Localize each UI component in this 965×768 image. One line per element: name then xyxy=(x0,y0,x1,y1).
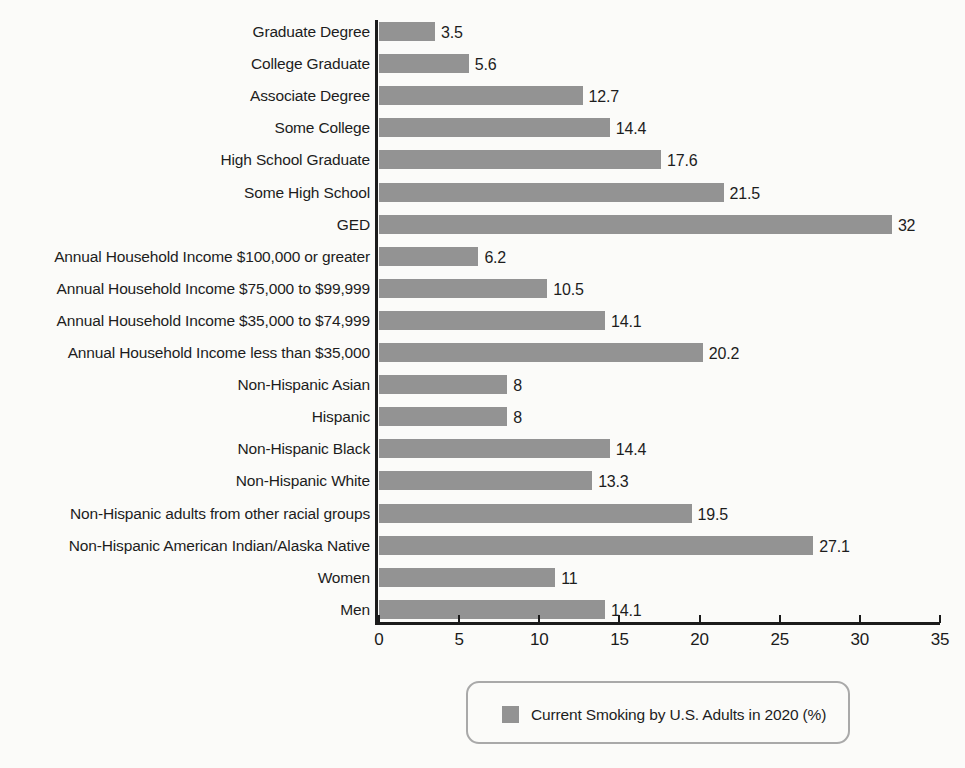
bar-row: Men14.1 xyxy=(0,594,965,626)
category-label: Hispanic xyxy=(312,401,370,433)
bar-value-label: 13.3 xyxy=(598,465,628,497)
category-label: Non-Hispanic White xyxy=(236,465,370,497)
x-tick-label: 35 xyxy=(931,630,950,650)
bar xyxy=(379,279,547,298)
bar xyxy=(379,504,692,523)
plot-area: Graduate Degree3.5College Graduate5.6Ass… xyxy=(0,0,965,768)
bar-chart: Graduate Degree3.5College Graduate5.6Ass… xyxy=(0,0,965,768)
x-tick xyxy=(538,615,540,623)
x-tick-label: 5 xyxy=(455,630,464,650)
bar-value-label: 27.1 xyxy=(819,530,849,562)
bar xyxy=(379,247,478,266)
bar xyxy=(379,86,583,105)
x-tick xyxy=(378,615,380,623)
bar-row: Non-Hispanic White13.3 xyxy=(0,465,965,497)
category-label: Non-Hispanic American Indian/Alaska Nati… xyxy=(69,530,370,562)
bar-value-label: 6.2 xyxy=(484,241,506,273)
x-tick-label: 10 xyxy=(530,630,549,650)
chart-legend: Current Smoking by U.S. Adults in 2020 (… xyxy=(466,681,850,744)
bar xyxy=(379,471,592,490)
category-label: Graduate Degree xyxy=(252,16,370,48)
bar-value-label: 10.5 xyxy=(553,273,583,305)
bar xyxy=(379,118,610,137)
bar xyxy=(379,375,507,394)
bar-row: Annual Household Income $75,000 to $99,9… xyxy=(0,273,965,305)
bar xyxy=(379,183,724,202)
bar-row: GED32 xyxy=(0,209,965,241)
bar-row: Annual Household Income $35,000 to $74,9… xyxy=(0,305,965,337)
bar xyxy=(379,215,892,234)
category-label: Annual Household Income $35,000 to $74,9… xyxy=(57,305,370,337)
bar-row: Some College14.4 xyxy=(0,112,965,144)
x-tick-label: 30 xyxy=(851,630,870,650)
category-label: Some High School xyxy=(244,177,370,209)
bar-row: Associate Degree12.7 xyxy=(0,80,965,112)
bar-value-label: 21.5 xyxy=(730,177,760,209)
category-label: Non-Hispanic adults from other racial gr… xyxy=(70,498,370,530)
bar xyxy=(379,600,605,619)
bar-value-label: 8 xyxy=(513,369,522,401)
x-tick-label: 25 xyxy=(770,630,789,650)
category-label: Some College xyxy=(274,112,370,144)
x-tick xyxy=(618,615,620,623)
bar-row: Non-Hispanic Asian8 xyxy=(0,369,965,401)
category-label: Annual Household Income $100,000 or grea… xyxy=(54,241,370,273)
bar-value-label: 5.6 xyxy=(475,48,497,80)
bar xyxy=(379,536,813,555)
bar xyxy=(379,311,605,330)
bar-row: Graduate Degree3.5 xyxy=(0,16,965,48)
category-label: Annual Household Income less than $35,00… xyxy=(68,337,370,369)
bar-value-label: 14.4 xyxy=(616,112,646,144)
bar xyxy=(379,54,469,73)
x-tick xyxy=(699,615,701,623)
bar xyxy=(379,343,703,362)
bar-value-label: 19.5 xyxy=(698,498,728,530)
x-tick xyxy=(458,615,460,623)
bar-value-label: 3.5 xyxy=(441,16,463,48)
x-tick xyxy=(859,615,861,623)
bar xyxy=(379,439,610,458)
legend-color-swatch xyxy=(502,706,519,723)
legend-entry: Current Smoking by U.S. Adults in 2020 (… xyxy=(502,683,826,746)
legend-label: Current Smoking by U.S. Adults in 2020 (… xyxy=(531,706,826,724)
bar-row: Non-Hispanic Black14.4 xyxy=(0,433,965,465)
bar-value-label: 14.1 xyxy=(611,305,641,337)
bar-value-label: 8 xyxy=(513,401,522,433)
bar-value-label: 20.2 xyxy=(709,337,739,369)
category-label: High School Graduate xyxy=(220,144,370,176)
x-tick xyxy=(779,615,781,623)
bar-row: College Graduate5.6 xyxy=(0,48,965,80)
x-tick xyxy=(939,615,941,623)
bar-row: Hispanic8 xyxy=(0,401,965,433)
bar-value-label: 12.7 xyxy=(589,80,619,112)
bar xyxy=(379,568,555,587)
category-label: Women xyxy=(318,562,370,594)
x-tick-label: 15 xyxy=(610,630,629,650)
x-tick-label: 20 xyxy=(690,630,709,650)
category-label: Non-Hispanic Black xyxy=(237,433,370,465)
bar-value-label: 11 xyxy=(561,562,577,594)
bar-value-label: 14.1 xyxy=(611,594,641,626)
bar-value-label: 32 xyxy=(898,209,915,241)
bar-row: Non-Hispanic American Indian/Alaska Nati… xyxy=(0,530,965,562)
y-axis-line xyxy=(375,20,378,623)
category-label: GED xyxy=(337,209,370,241)
bar xyxy=(379,22,435,41)
bar xyxy=(379,150,661,169)
bar-row: Non-Hispanic adults from other racial gr… xyxy=(0,498,965,530)
category-label: College Graduate xyxy=(251,48,370,80)
x-tick-label: 0 xyxy=(374,630,383,650)
bar-value-label: 14.4 xyxy=(616,433,646,465)
bar xyxy=(379,407,507,426)
bar-row: Women11 xyxy=(0,562,965,594)
bar-row: Annual Household Income less than $35,00… xyxy=(0,337,965,369)
bar-value-label: 17.6 xyxy=(667,144,697,176)
bar-row: Some High School21.5 xyxy=(0,177,965,209)
bar-row: High School Graduate17.6 xyxy=(0,144,965,176)
category-label: Non-Hispanic Asian xyxy=(237,369,370,401)
category-label: Associate Degree xyxy=(250,80,370,112)
category-label: Annual Household Income $75,000 to $99,9… xyxy=(57,273,370,305)
bar-row: Annual Household Income $100,000 or grea… xyxy=(0,241,965,273)
category-label: Men xyxy=(340,594,370,626)
